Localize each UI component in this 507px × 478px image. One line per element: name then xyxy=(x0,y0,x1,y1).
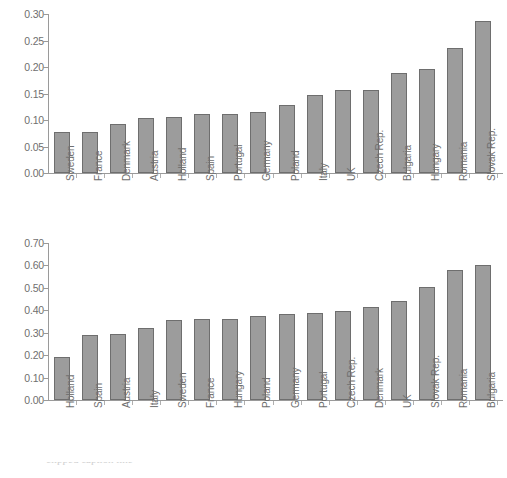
x-axis-category-label: Italy xyxy=(150,390,160,408)
bot-y-tick-label: 0.60 xyxy=(0,260,44,270)
top-x-tick-mark xyxy=(469,174,470,178)
x-axis-category-label: France xyxy=(94,150,104,181)
top-y-tick-label: 0.20 xyxy=(0,62,44,72)
top-x-tick-mark xyxy=(244,174,245,178)
top-x-tick-mark xyxy=(497,174,498,178)
x-axis-category-label: Austria xyxy=(122,378,132,408)
top-y-tick-mark xyxy=(43,94,48,95)
bot-y-tick-mark xyxy=(43,333,48,334)
bot-x-tick-mark xyxy=(132,401,133,405)
x-axis-category-label: Portugal xyxy=(319,372,329,408)
bot-x-tick-mark xyxy=(104,401,105,405)
bot-y-tick-mark xyxy=(43,243,48,244)
x-axis-category-label: Slovak Rep. xyxy=(487,128,497,181)
bot-y-tick-label: 0.00 xyxy=(0,395,44,405)
top-y-tick-mark xyxy=(43,67,48,68)
x-axis-category-label: Portugal xyxy=(234,145,244,181)
bot-x-tick-mark xyxy=(441,401,442,405)
top-y-tick-mark xyxy=(43,14,48,15)
top-y-tick-label: 0.30 xyxy=(0,9,44,19)
top-y-tick-label: 0.05 xyxy=(0,142,44,152)
bot-x-tick-mark xyxy=(244,401,245,405)
x-axis-category-label: Czech Rep. xyxy=(375,130,385,181)
top-x-tick-mark xyxy=(385,174,386,178)
bot-x-tick-mark xyxy=(329,401,330,405)
top-y-tick-mark xyxy=(43,41,48,42)
top-y-tick-label: 0.10 xyxy=(0,115,44,125)
top-x-tick-mark xyxy=(441,174,442,178)
x-axis-category-label: Poland xyxy=(291,150,301,181)
bar xyxy=(307,95,323,173)
bot-x-tick-mark xyxy=(301,401,302,405)
x-axis-category-label: Italy xyxy=(319,163,329,181)
top-y-tick-mark xyxy=(43,173,48,174)
bot-y-tick-label: 0.70 xyxy=(0,238,44,248)
top-x-tick-mark xyxy=(301,174,302,178)
bar xyxy=(335,90,351,173)
bot-x-tick-mark xyxy=(413,401,414,405)
top-y-tick-mark xyxy=(43,120,48,121)
caption-text: clipped caption line xyxy=(46,462,133,465)
x-axis-category-label: Hungary xyxy=(234,371,244,408)
x-axis-category-label: Spain xyxy=(94,383,104,408)
x-axis-category-label: Holland xyxy=(66,375,76,408)
x-axis-category-label: Poland xyxy=(262,377,272,408)
bot-x-tick-mark xyxy=(273,401,274,405)
top-x-tick-mark xyxy=(160,174,161,178)
x-axis-category-label: Bulgaria xyxy=(403,145,413,181)
top-x-tick-mark xyxy=(104,174,105,178)
top-x-tick-mark xyxy=(76,174,77,178)
top-x-tick-mark xyxy=(273,174,274,178)
bot-y-tick-mark xyxy=(43,378,48,379)
bot-x-tick-mark xyxy=(357,401,358,405)
top-x-tick-mark xyxy=(357,174,358,178)
x-axis-category-label: Spain xyxy=(206,156,216,181)
bot-y-tick-mark xyxy=(43,355,48,356)
top-x-tick-mark xyxy=(188,174,189,178)
bottom-bar-chart: 0.700.600.500.400.300.200.100.00 Holland… xyxy=(0,235,507,463)
x-axis-category-label: Sweden xyxy=(178,372,188,408)
bot-y-tick-mark xyxy=(43,265,48,266)
x-axis-category-label: Germany xyxy=(262,141,272,181)
bot-x-tick-mark xyxy=(188,401,189,405)
bot-y-tick-label: 0.10 xyxy=(0,373,44,383)
bot-x-tick-mark xyxy=(76,401,77,405)
x-axis-category-label: France xyxy=(206,377,216,408)
x-axis-category-label: Hungary xyxy=(431,144,441,181)
top-y-tick-mark xyxy=(43,147,48,148)
bot-x-tick-mark xyxy=(160,401,161,405)
x-axis-category-label: Denmark xyxy=(375,368,385,408)
top-chart-y-axis-line xyxy=(48,14,49,174)
x-axis-category-label: Holland xyxy=(178,148,188,181)
top-y-tick-label: 0.00 xyxy=(0,168,44,178)
x-axis-category-label: UK xyxy=(347,167,357,181)
bot-y-tick-label: 0.50 xyxy=(0,283,44,293)
x-axis-category-label: Austria xyxy=(150,151,160,181)
x-axis-category-label: Slovak Rep. xyxy=(431,355,441,408)
bot-x-tick-mark xyxy=(469,401,470,405)
bot-y-tick-label: 0.40 xyxy=(0,305,44,315)
bot-y-tick-label: 0.30 xyxy=(0,328,44,338)
bot-x-tick-mark xyxy=(497,401,498,405)
x-axis-category-label: Germany xyxy=(291,368,301,408)
top-x-tick-mark xyxy=(329,174,330,178)
bot-y-tick-mark xyxy=(43,288,48,289)
top-x-tick-mark xyxy=(413,174,414,178)
x-axis-category-label: UK xyxy=(403,394,413,408)
x-axis-category-label: Sweden xyxy=(66,145,76,181)
bot-y-tick-mark xyxy=(43,310,48,311)
top-x-tick-mark xyxy=(132,174,133,178)
x-axis-category-label: Romania xyxy=(459,369,469,408)
bot-x-tick-mark xyxy=(216,401,217,405)
top-bar-chart: 0.300.250.200.150.100.050.00 SwedenFranc… xyxy=(0,0,507,235)
bar xyxy=(391,301,407,400)
bot-y-tick-mark xyxy=(43,400,48,401)
top-y-tick-label: 0.15 xyxy=(0,89,44,99)
top-x-tick-mark xyxy=(216,174,217,178)
x-axis-category-label: Czech Rep. xyxy=(347,357,357,408)
bot-y-tick-label: 0.20 xyxy=(0,350,44,360)
page-caption-clipped: clipped caption line xyxy=(0,462,507,478)
x-axis-category-label: Romania xyxy=(459,142,469,181)
x-axis-category-label: Bulgaria xyxy=(487,372,497,408)
bot-x-tick-mark xyxy=(385,401,386,405)
